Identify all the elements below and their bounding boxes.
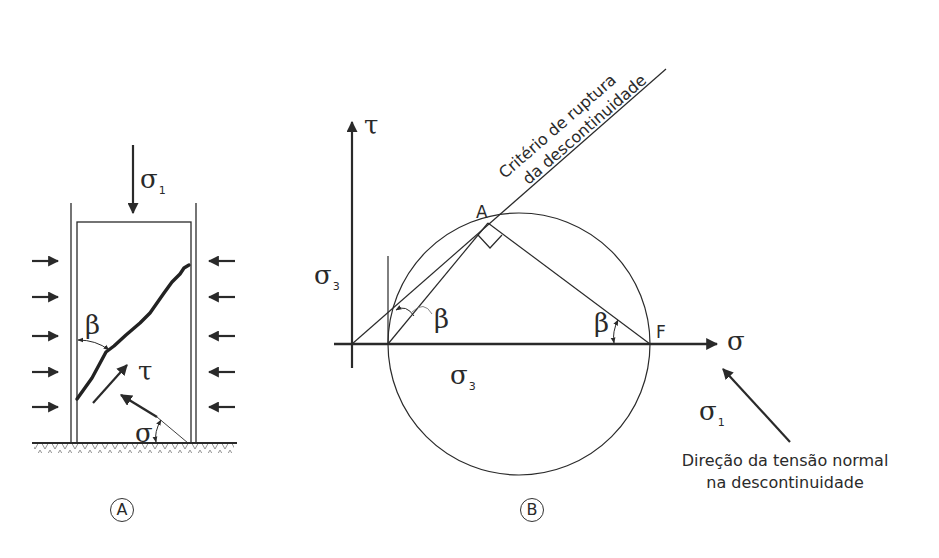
shear-stress-arrow	[93, 365, 127, 403]
normal-stress-arrow	[121, 395, 157, 417]
normal-stress-guide	[157, 417, 188, 443]
normal-direction-line2: na descontinuidade	[655, 472, 915, 494]
sigma3-left-label: σ3	[314, 262, 340, 300]
panel-label-a: A	[110, 498, 134, 522]
point-a-label: A	[476, 202, 488, 222]
sigma1-label-b: σ1	[699, 398, 725, 436]
beta-right-label: β	[594, 310, 609, 336]
beta-left-label: β	[434, 306, 449, 332]
sigma-label-a: σ	[135, 420, 153, 446]
tau-axis-label: τ	[364, 112, 378, 138]
sigma-angle-arc	[156, 420, 161, 442]
ground-hatch	[34, 444, 234, 453]
figure-a-specimen	[32, 145, 237, 453]
panel-label-b: B	[520, 498, 544, 522]
sigma3-bottom-label: σ3	[450, 362, 476, 400]
a-to-f-line	[488, 223, 650, 344]
normal-direction-arrow	[723, 369, 790, 442]
beta-angle-arc	[78, 340, 109, 350]
normal-direction-line1: Direção da tensão normal	[655, 450, 915, 472]
tau-label-a: τ	[138, 358, 152, 384]
beta-right-arc	[614, 320, 619, 343]
point-f-label: F	[656, 322, 666, 342]
normal-direction-caption: Direção da tensão normal na descontinuid…	[655, 450, 915, 494]
sigma1-label-a: σ1	[140, 166, 166, 204]
right-angle-marker	[478, 235, 502, 248]
beta-left-pointer	[412, 306, 432, 314]
lateral-arrows-right	[209, 261, 235, 407]
beta-label-a: β	[85, 312, 100, 338]
beta-left-arc	[396, 308, 414, 316]
sigma-axis-label: σ	[727, 328, 745, 354]
lateral-arrows-left	[32, 261, 58, 407]
